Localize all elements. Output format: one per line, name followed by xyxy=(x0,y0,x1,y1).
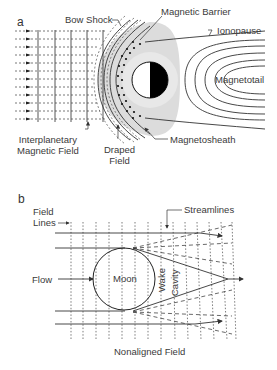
imf-label: Interplanetary Magnetic Field xyxy=(17,134,79,156)
streamlines-label: Streamlines xyxy=(184,204,234,215)
draped-label-line1: Draped xyxy=(104,144,135,155)
solar-wind-flow-lines xyxy=(15,31,105,119)
field-lines-label: Field Lines xyxy=(33,206,56,228)
diagram-canvas xyxy=(0,0,277,370)
interplanetary-field-lines xyxy=(38,30,103,122)
panel-a-letter: a xyxy=(17,15,24,29)
magnetosheath-label: Magnetosheath xyxy=(170,134,236,145)
field-lines-line1: Field xyxy=(33,206,56,217)
draped-label-line2: Field xyxy=(104,155,135,166)
cavity-label: Cavity xyxy=(169,270,180,296)
imf-label-line1: Interplanetary xyxy=(17,134,79,145)
panel-b-letter: b xyxy=(18,192,25,206)
flow-arrowheads xyxy=(26,30,31,121)
magnetic-barrier-label: Magnetic Barrier xyxy=(161,6,231,17)
moon-label: Moon xyxy=(113,273,137,284)
bow-shock-label: Bow Shock xyxy=(65,14,113,25)
panel-b-leaders xyxy=(58,210,182,228)
field-lines-line2: Lines xyxy=(33,217,56,228)
flow-label: Flow xyxy=(32,274,52,285)
planet xyxy=(132,62,168,98)
imf-label-line2: Magnetic Field xyxy=(17,145,79,156)
draped-field-label: Draped Field xyxy=(104,144,135,166)
nonaligned-field-caption: Nonaligned Field xyxy=(114,346,185,357)
ionopause-label: Ionopause xyxy=(217,25,261,36)
magnetotail-label: Magnetotail xyxy=(215,74,264,85)
wake-label: Wake xyxy=(156,268,167,292)
